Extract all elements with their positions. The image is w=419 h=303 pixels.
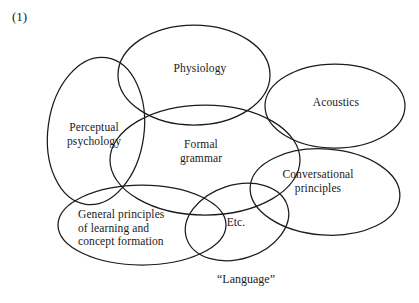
region-label-conversational-principles: Conversational principles bbox=[259, 168, 377, 195]
region-label-physiology: Physiology bbox=[152, 62, 248, 76]
region-label-perceptual-psychology: Perceptual psychology bbox=[44, 121, 144, 148]
region-label-etc: Etc. bbox=[212, 216, 260, 230]
figure-container: (1) Perceptual psychology Physiology Aco… bbox=[0, 0, 419, 303]
region-label-general-principles: General principles of learning and conce… bbox=[78, 208, 208, 249]
figure-caption-language: “Language” bbox=[196, 272, 296, 287]
region-label-formal-grammar: Formal grammar bbox=[163, 138, 239, 165]
region-label-acoustics: Acoustics bbox=[296, 96, 376, 110]
